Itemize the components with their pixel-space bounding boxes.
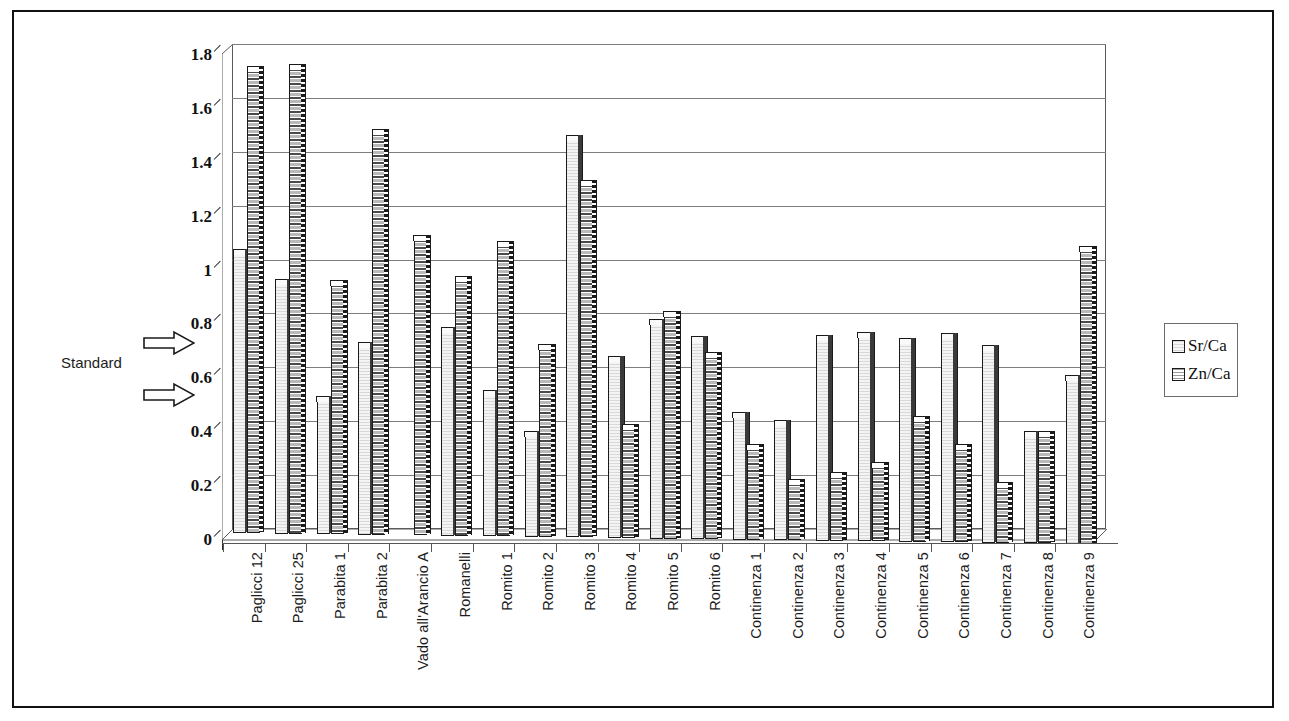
bar-side-face	[884, 462, 889, 540]
y-axis-tick-label: 1.4	[150, 154, 212, 171]
bar-zn-ca	[539, 348, 552, 537]
bar-side-face	[301, 64, 306, 533]
bar-zn-ca	[913, 420, 926, 541]
y-axis-labels: 00.20.40.60.811.21.41.61.8	[150, 0, 212, 721]
x-axis-tick	[722, 543, 723, 552]
x-axis-tick	[265, 543, 266, 552]
x-axis-tick	[348, 543, 349, 552]
gridline	[232, 206, 1106, 207]
x-axis-tick-label: Romito 3	[582, 552, 598, 611]
bar-sr-ca	[816, 339, 829, 541]
bar-zn-ca	[247, 70, 260, 533]
bar-sr-ca	[982, 349, 995, 543]
bar-zn-ca	[1038, 435, 1051, 543]
x-axis-tick	[431, 543, 432, 552]
bar-side-face	[1050, 431, 1055, 542]
bar-side-face	[467, 276, 472, 535]
arrow-right-icon	[143, 382, 195, 408]
x-axis-tick	[306, 543, 307, 552]
x-axis-tick-label: Continenza 1	[748, 552, 764, 639]
bar-side-face	[509, 241, 514, 535]
x-axis-tick-label: Continenza 2	[790, 552, 806, 639]
bar-zn-ca	[455, 280, 468, 536]
x-axis-tick	[931, 543, 932, 552]
bar-zn-ca	[788, 483, 801, 540]
x-axis-tick-label: Romito 5	[665, 552, 681, 611]
gridline	[232, 98, 1106, 99]
x-axis-tick	[1014, 543, 1015, 552]
zn-pattern-swatch-icon	[1172, 368, 1185, 381]
x-axis-tick	[972, 543, 973, 552]
x-axis-tick	[806, 543, 807, 552]
bar-zn-ca	[664, 315, 677, 539]
x-axis-tick	[639, 543, 640, 552]
x-axis-tick-label: Romito 4	[623, 552, 639, 611]
legend-item-zn-ca: Zn/Ca	[1172, 360, 1237, 388]
x-axis-tick-label: Continenza 6	[956, 552, 972, 639]
bar-zn-ca	[414, 239, 427, 535]
x-axis-line	[222, 543, 1118, 544]
bar-sr-ca	[525, 435, 538, 537]
x-axis-tick	[764, 543, 765, 552]
x-axis-tick-label: Vado all'Arancio A	[415, 552, 431, 670]
x-axis-tick-label: Paglicci 12	[249, 552, 265, 623]
bar-zn-ca	[747, 448, 760, 540]
y-axis-tick-label: 0	[150, 531, 212, 548]
bar-sr-ca	[858, 336, 871, 541]
bar-sr-ca	[691, 340, 704, 539]
x-axis-tick-label: Continenza 5	[915, 552, 931, 639]
bar-side-face	[759, 444, 764, 539]
x-axis-tick	[681, 543, 682, 552]
y-axis-tick-label: 0.4	[150, 423, 212, 440]
plot-area	[222, 44, 1106, 539]
y-axis-tick-label: 1.2	[150, 208, 212, 225]
x-axis-tick	[889, 543, 890, 552]
bar-sr-ca	[608, 360, 621, 538]
bar-zn-ca	[622, 428, 635, 538]
bar-side-face	[259, 66, 264, 532]
legend-label-sr-ca: Sr/Ca	[1188, 336, 1227, 356]
x-axis-tick-label: Continenza 8	[1040, 552, 1056, 639]
bar-side-face	[343, 280, 348, 534]
bar-sr-ca	[233, 253, 246, 533]
bar-sr-ca	[358, 346, 371, 535]
bar-sr-ca	[733, 416, 746, 540]
sr-pattern-swatch-icon	[1172, 340, 1185, 353]
y-axis-tick-label: 1.6	[150, 100, 212, 117]
bar-sr-ca	[441, 331, 454, 536]
bar-side-face	[384, 129, 389, 533]
bar-sr-ca	[483, 394, 496, 537]
x-axis-tick	[556, 543, 557, 552]
bar-zn-ca	[996, 486, 1009, 543]
bar-zn-ca	[289, 68, 302, 534]
x-axis-tick-label: Continenza 4	[873, 552, 889, 639]
x-axis-tick	[514, 543, 515, 552]
bar-sr-ca	[566, 139, 579, 538]
bar-zn-ca	[872, 466, 885, 541]
x-axis-tick-label: Continenza 3	[831, 552, 847, 639]
gridline	[232, 152, 1106, 153]
y-axis-tick-label: 0.2	[150, 477, 212, 494]
x-axis-tick-label: Continenza 9	[1081, 552, 1097, 639]
bar-side-face	[842, 472, 847, 540]
bar-side-face	[426, 235, 431, 534]
bar-sr-ca	[1066, 379, 1079, 543]
bar-sr-ca	[275, 283, 288, 534]
bar-zn-ca	[331, 284, 344, 535]
bar-side-face	[551, 344, 556, 536]
bar-zn-ca	[580, 184, 593, 537]
legend-label-zn-ca: Zn/Ca	[1188, 364, 1231, 384]
x-axis-tick	[1055, 543, 1056, 552]
legend-item-sr-ca: Sr/Ca	[1172, 332, 1237, 360]
bar-side-face	[634, 424, 639, 537]
bar-zn-ca	[372, 133, 385, 534]
x-axis-tick	[473, 543, 474, 552]
chart-page: 00.20.40.60.811.21.41.61.8 Paglicci 12Pa…	[0, 0, 1289, 721]
x-axis-tick	[389, 543, 390, 552]
bar-zn-ca	[830, 476, 843, 541]
bar-side-face	[676, 311, 681, 538]
bar-side-face	[1008, 482, 1013, 542]
x-axis-tick-label: Parabita 1	[332, 552, 348, 619]
bar-sr-ca	[1024, 435, 1037, 543]
bar-sr-ca	[899, 342, 912, 541]
